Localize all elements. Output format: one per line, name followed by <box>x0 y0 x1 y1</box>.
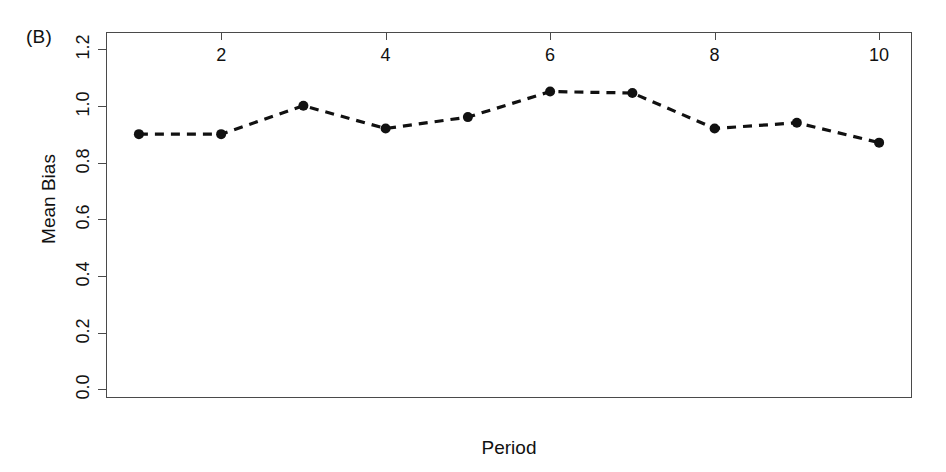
y-tick-label: 0.4 <box>84 274 105 299</box>
plot-area: 0.00.20.40.60.81.01.2 246810 Period 1: 0… <box>106 32 912 398</box>
y-axis-title: Mean Bias <box>36 0 62 399</box>
y-tick-label: 1.2 <box>84 47 105 72</box>
data-point-marker: Period 2: 0.9 <box>216 129 226 139</box>
chart-figure: (B) Mean Bias 0.00.20.40.60.81.01.2 2468… <box>0 0 946 472</box>
y-tick-label: 0.2 <box>84 331 105 356</box>
y-tick-label: 1.0 <box>84 104 105 129</box>
y-tick-label-text: 0.2 <box>73 318 94 343</box>
data-point-marker: Period 4: 0.92 <box>381 123 391 133</box>
y-tick-label: 0.0 <box>84 387 105 412</box>
series-plot: Period 1: 0.9Period 2: 0.9Period 3: 1Per… <box>106 32 912 398</box>
y-tick-label-text: 0.8 <box>73 148 94 173</box>
y-tick-label: 0.6 <box>84 217 105 242</box>
y-tick-label-text: 0.4 <box>73 261 94 286</box>
y-tick-label: 0.8 <box>84 160 105 185</box>
series-line <box>139 92 879 143</box>
y-tick-label-text: 1.2 <box>73 34 94 59</box>
data-point-marker: Period 6: 1.05 <box>545 87 555 97</box>
data-point-marker: Period 1: 0.9 <box>134 129 144 139</box>
y-tick-label-text: 0.6 <box>73 205 94 230</box>
data-point-marker: Period 5: 0.96 <box>463 112 473 122</box>
data-point-marker: Period 7: 1.045 <box>627 88 637 98</box>
y-tick-label-text: 1.0 <box>73 91 94 116</box>
data-point-marker: Period 10: 0.87 <box>874 138 884 148</box>
data-point-marker: Period 8: 0.92 <box>710 123 720 133</box>
data-point-marker: Period 9: 0.94 <box>792 118 802 128</box>
y-tick-label-text: 0.0 <box>73 375 94 400</box>
data-point-marker: Period 3: 1 <box>298 101 308 111</box>
x-axis-title: Period <box>106 437 912 459</box>
